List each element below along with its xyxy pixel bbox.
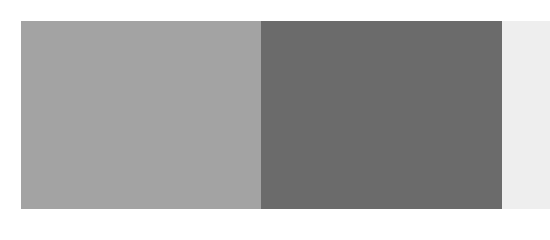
swatch-medium-gray: [21, 21, 261, 209]
swatch-dark-gray: [261, 21, 502, 209]
swatch-light-gray: [502, 21, 550, 209]
